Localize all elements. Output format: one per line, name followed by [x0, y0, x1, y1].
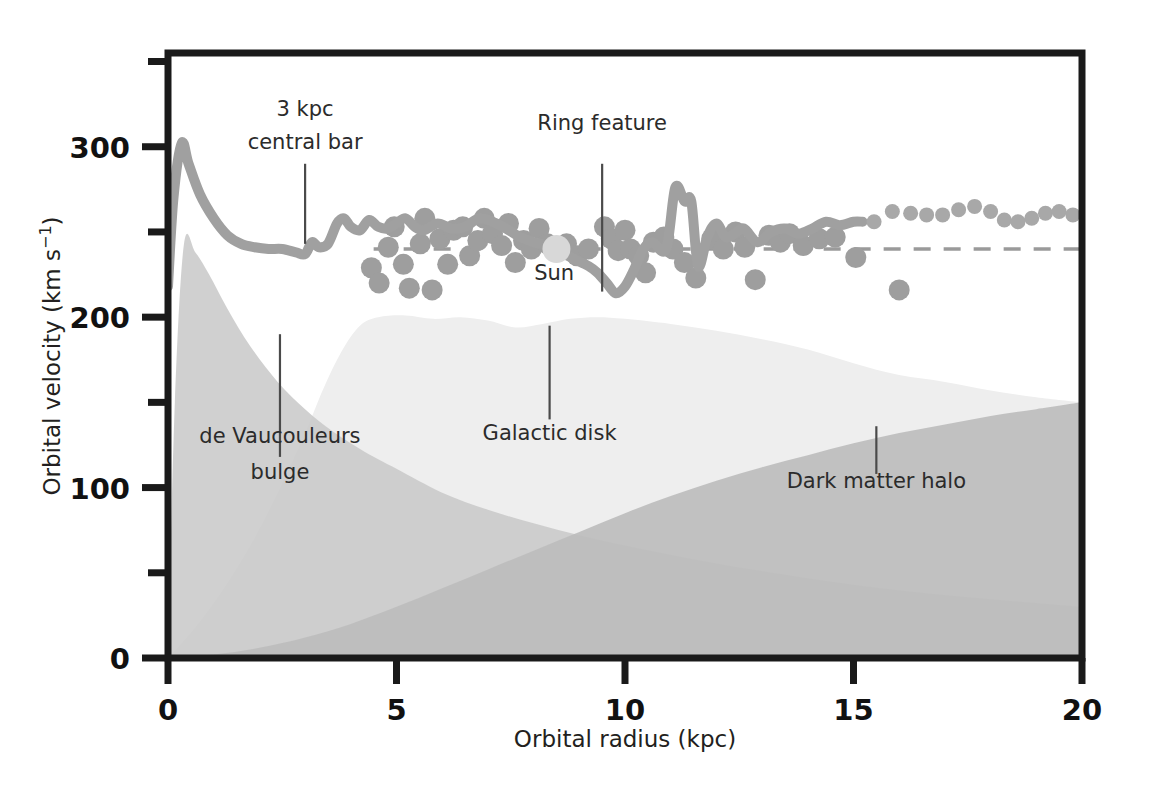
- curve-dot: [1052, 204, 1067, 219]
- scatter-point: [615, 220, 636, 241]
- curve-dot: [967, 199, 982, 214]
- annotation-central-bar: 3 kpccentral bar: [248, 97, 363, 154]
- curve-dot: [885, 204, 900, 219]
- curve-dot: [1038, 206, 1053, 221]
- y-tick-label: 100: [69, 472, 130, 506]
- area-layers: [168, 234, 1082, 666]
- y-tick-label: 0: [110, 642, 130, 676]
- annotation-line-1: Galactic disk: [483, 421, 618, 445]
- annotation-dark-matter: Dark matter halo: [787, 469, 966, 493]
- x-axis-title: Orbital radius (kpc): [514, 726, 736, 752]
- x-tick-label: 15: [833, 693, 873, 727]
- curve-dot: [935, 207, 950, 222]
- scatter-point: [505, 252, 526, 273]
- curve-dot: [867, 214, 882, 229]
- curve-dot: [903, 206, 918, 221]
- sun-position-marker: [542, 235, 570, 263]
- curve-dot: [1024, 211, 1039, 226]
- rotation-curve-dotted: [867, 199, 1081, 229]
- scatter-point: [422, 279, 443, 300]
- scatter-point: [393, 254, 414, 275]
- y-tick-labels: 0100200300: [69, 131, 130, 676]
- y-tick-label: 300: [69, 131, 130, 165]
- scatter-point: [378, 237, 399, 258]
- scatter-point: [745, 269, 766, 290]
- x-tick-label: 0: [158, 693, 178, 727]
- chart-canvas: 05101520 0100200300 3 kpccentral barRing…: [0, 0, 1155, 803]
- scatter-point: [437, 254, 458, 275]
- annotation-line-1: 3 kpc: [277, 97, 334, 121]
- curve-dot: [997, 213, 1012, 228]
- y-axis-title-end: ): [39, 216, 65, 225]
- annotation-line-2: central bar: [248, 130, 363, 154]
- scatter-point: [845, 247, 866, 268]
- annotation-line-1: de Vaucouleurs: [199, 424, 360, 448]
- y-axis-title: Orbital velocity (km s−1): [36, 216, 65, 495]
- sun-marker: [542, 235, 570, 263]
- scatter-point: [578, 238, 599, 259]
- scatter-point: [889, 279, 910, 300]
- y-axis-title-superscript: −1: [36, 225, 55, 249]
- scatter-point: [410, 233, 431, 254]
- y-tick-label: 200: [69, 301, 130, 335]
- curve-dot: [1011, 214, 1026, 229]
- annotation-ring-feature: Ring feature: [537, 111, 667, 135]
- annotation-sun: Sun: [534, 261, 574, 285]
- rotation-curve-figure: 05101520 0100200300 3 kpccentral barRing…: [0, 0, 1155, 803]
- annotation-line-1: Sun: [534, 261, 574, 285]
- x-tick-label: 20: [1062, 693, 1102, 727]
- y-axis-title-main: Orbital velocity (km s: [39, 249, 65, 496]
- curve-dot: [919, 207, 934, 222]
- annotation-galactic-disk: Galactic disk: [483, 421, 618, 445]
- annotation-line-1: Dark matter halo: [787, 469, 966, 493]
- scatter-point: [491, 235, 512, 256]
- annotation-line-2: bulge: [251, 460, 310, 484]
- curve-dot: [1065, 207, 1080, 222]
- curve-dot: [983, 204, 998, 219]
- x-tick-label: 5: [386, 693, 406, 727]
- x-tick-label: 10: [605, 693, 645, 727]
- curve-dot: [951, 202, 966, 217]
- svg-text:Orbital velocity (km s−1): Orbital velocity (km s−1): [36, 216, 65, 495]
- x-tick-labels: 05101520: [158, 693, 1102, 727]
- annotation-line-1: Ring feature: [537, 111, 667, 135]
- scatter-point: [369, 273, 390, 294]
- scatter-point: [399, 278, 420, 299]
